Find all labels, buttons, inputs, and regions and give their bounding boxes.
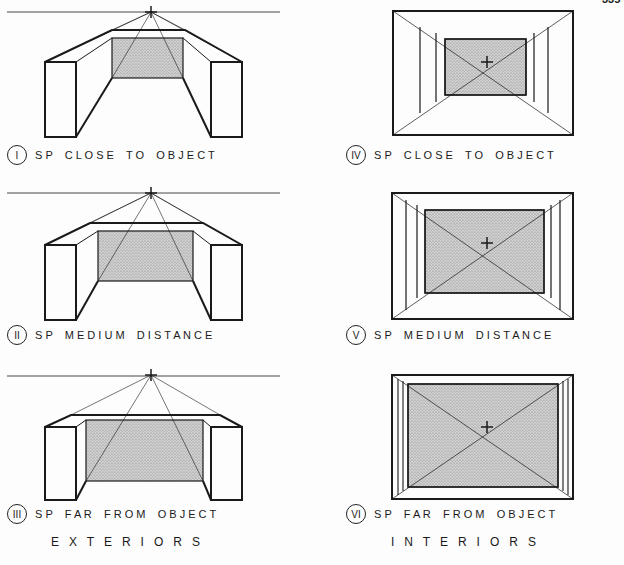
caption-text: S P M E D I U M D I S T A N C E <box>374 329 551 341</box>
caption-text: S P F A R F R O M O B J E C T <box>374 508 555 520</box>
caption-panel-i: I S P C L O S E T O O B J E C T <box>7 145 215 165</box>
numeral-badge: II <box>7 325 27 345</box>
panel-iii-exterior-far <box>7 369 280 500</box>
right-block <box>211 62 242 137</box>
left-block <box>45 427 76 500</box>
back-wall-stippled <box>408 384 558 487</box>
vanishing-point-icon <box>145 187 157 199</box>
panel-v-interior-medium <box>392 193 573 319</box>
caption-text: S P C L O S E T O O B J E C T <box>35 149 215 161</box>
vanishing-point-icon <box>145 369 157 381</box>
panel-ii-exterior-medium <box>7 187 280 320</box>
caption-panel-iii: III S P F A R F R O M O B J E C T <box>7 504 216 524</box>
numeral-badge: III <box>7 504 27 524</box>
back-wall-stippled <box>425 210 544 293</box>
numeral-badge: I <box>7 145 27 165</box>
perspective-diagram <box>0 0 624 565</box>
caption-text: S P M E D I U M D I S T A N C E <box>35 329 212 341</box>
numeral-badge: VI <box>346 504 366 524</box>
caption-panel-vi: VI S P F A R F R O M O B J E C T <box>346 504 555 524</box>
caption-panel-ii: II S P M E D I U M D I S T A N C E <box>7 325 212 345</box>
panel-iv-interior-close <box>393 11 573 135</box>
back-wall-stippled <box>86 420 203 481</box>
back-wall-stippled <box>98 231 193 281</box>
numeral-badge: IV <box>346 145 366 165</box>
caption-text: S P C L O S E T O O B J E C T <box>374 149 554 161</box>
right-block <box>211 427 242 500</box>
panel-i-exterior-close <box>7 6 280 137</box>
panel-vi-interior-far <box>392 375 573 499</box>
back-wall-stippled <box>112 38 183 78</box>
left-block <box>45 245 76 320</box>
left-block <box>45 62 76 137</box>
section-label-interiors: I N T E R I O R S <box>391 535 536 549</box>
caption-text: S P F A R F R O M O B J E C T <box>35 508 216 520</box>
section-label-exteriors: E X T E R I O R S <box>51 535 200 549</box>
back-wall-stippled <box>445 39 526 95</box>
right-block <box>211 245 242 320</box>
caption-panel-v: V S P M E D I U M D I S T A N C E <box>346 325 551 345</box>
numeral-badge: V <box>346 325 366 345</box>
caption-panel-iv: IV S P C L O S E T O O B J E C T <box>346 145 554 165</box>
vanishing-point-icon <box>145 6 157 18</box>
